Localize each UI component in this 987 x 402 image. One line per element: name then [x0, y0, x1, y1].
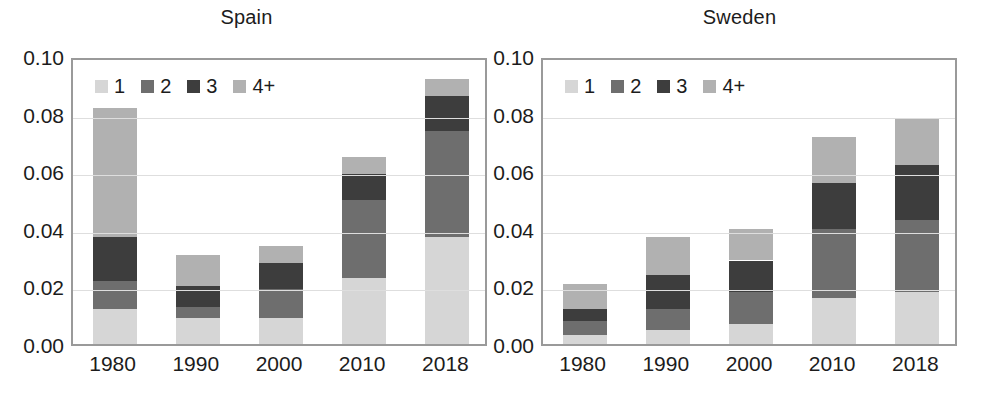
bar-segment[interactable]	[646, 237, 690, 274]
bar-group[interactable]	[93, 108, 137, 344]
y-axis-tick-label: 0.02	[493, 277, 534, 298]
bar-segment[interactable]	[729, 292, 773, 324]
x-axis-tick-label: 1990	[154, 352, 237, 376]
bar-segment[interactable]	[176, 307, 220, 319]
bar-segment[interactable]	[646, 275, 690, 310]
x-axis-tick-label: 2018	[874, 352, 957, 376]
x-axis-tick-label: 1980	[541, 352, 624, 376]
bar-group[interactable]	[729, 229, 773, 344]
bar-segment[interactable]	[425, 96, 469, 131]
gridline	[73, 175, 485, 176]
y-axis-tick-label: 0.00	[493, 335, 534, 356]
y-axis-tick-label: 0.00	[23, 335, 64, 356]
gridline	[543, 290, 955, 291]
bar-group[interactable]	[259, 246, 303, 344]
bar-segment[interactable]	[425, 79, 469, 96]
y-axis-tick-label: 0.08	[23, 105, 64, 126]
bar-segment[interactable]	[729, 261, 773, 293]
y-axis-ticks-sweden: 0.000.020.040.060.080.10	[470, 58, 534, 346]
gridline	[73, 290, 485, 291]
x-axis-tick-label: 1990	[624, 352, 707, 376]
bar-group[interactable]	[895, 119, 939, 344]
y-axis-tick-label: 0.06	[23, 162, 64, 183]
plot-area-sweden: 1234+	[541, 58, 957, 346]
gridline	[543, 175, 955, 176]
bar-segment[interactable]	[563, 321, 607, 335]
x-axis-tick-label: 1980	[71, 352, 154, 376]
bars-layer-spain	[73, 60, 485, 344]
bar-segment[interactable]	[259, 289, 303, 318]
bar-segment[interactable]	[93, 108, 137, 238]
bar-segment[interactable]	[895, 220, 939, 292]
y-axis-tick-label: 0.04	[23, 220, 64, 241]
x-axis-tick-label: 2000	[237, 352, 320, 376]
plot-area-spain: 1234+	[71, 58, 487, 346]
gridline	[73, 118, 485, 119]
bar-segment[interactable]	[563, 309, 607, 321]
bar-segment[interactable]	[895, 292, 939, 344]
figure-stacked-bar-charts: Spain 0.000.020.040.060.080.10 1234+ 198…	[0, 0, 987, 402]
y-axis-tick-label: 0.10	[23, 47, 64, 68]
gridline	[73, 233, 485, 234]
x-axis-tick-label: 2010	[321, 352, 404, 376]
bars-layer-sweden	[543, 60, 955, 344]
x-axis-tick-label: 2010	[791, 352, 874, 376]
bar-segment[interactable]	[812, 183, 856, 229]
bar-segment[interactable]	[259, 318, 303, 344]
bar-group[interactable]	[176, 255, 220, 344]
bar-segment[interactable]	[729, 324, 773, 344]
bar-segment[interactable]	[563, 284, 607, 310]
page-title-sweden: Sweden	[493, 6, 986, 29]
bar-segment[interactable]	[342, 278, 386, 344]
bar-segment[interactable]	[812, 298, 856, 344]
bar-segment[interactable]	[342, 174, 386, 200]
bar-segment[interactable]	[259, 263, 303, 289]
panel-sweden: Sweden 0.000.020.040.060.080.10 1234+ 19…	[493, 0, 986, 402]
bar-segment[interactable]	[646, 330, 690, 344]
bar-group[interactable]	[342, 157, 386, 344]
x-axis-tick-label: 2018	[404, 352, 487, 376]
y-axis-tick-label: 0.06	[493, 162, 534, 183]
gridline	[543, 233, 955, 234]
bar-segment[interactable]	[646, 309, 690, 329]
bar-segment[interactable]	[425, 131, 469, 238]
x-axis-tick-label: 2000	[707, 352, 790, 376]
bar-segment[interactable]	[342, 200, 386, 278]
y-axis-tick-label: 0.02	[23, 277, 64, 298]
y-axis-tick-label: 0.08	[493, 105, 534, 126]
y-axis-ticks-spain: 0.000.020.040.060.080.10	[0, 58, 64, 346]
bar-segment[interactable]	[259, 246, 303, 263]
bar-segment[interactable]	[895, 165, 939, 220]
bar-segment[interactable]	[342, 157, 386, 174]
bar-segment[interactable]	[895, 119, 939, 165]
bar-group[interactable]	[425, 79, 469, 344]
y-axis-tick-label: 0.04	[493, 220, 534, 241]
bar-segment[interactable]	[93, 281, 137, 310]
x-axis-ticks-sweden: 19801990200020102018	[541, 350, 957, 382]
bar-segment[interactable]	[176, 318, 220, 344]
bar-segment[interactable]	[93, 309, 137, 344]
bar-segment[interactable]	[812, 229, 856, 298]
x-axis-ticks-spain: 19801990200020102018	[71, 350, 487, 382]
panel-spain: Spain 0.000.020.040.060.080.10 1234+ 198…	[0, 0, 493, 402]
bar-group[interactable]	[563, 284, 607, 344]
y-axis-tick-label: 0.10	[493, 47, 534, 68]
bar-segment[interactable]	[563, 335, 607, 344]
bar-group[interactable]	[812, 137, 856, 344]
bar-segment[interactable]	[93, 237, 137, 280]
gridline	[543, 118, 955, 119]
bar-segment[interactable]	[176, 255, 220, 287]
page-title-spain: Spain	[0, 6, 493, 29]
